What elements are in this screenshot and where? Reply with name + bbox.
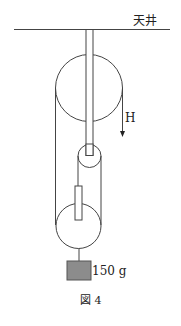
support-rod [86, 30, 93, 156]
arrow-down-icon [120, 131, 125, 137]
pulley-diagram [0, 0, 181, 326]
pulley-connector [75, 186, 82, 220]
force-label: H [125, 112, 135, 124]
mass-label: 150 g [92, 265, 126, 277]
figure-caption: 図 4 [80, 295, 102, 306]
ceiling-label: 天井 [133, 15, 157, 27]
weight-block [67, 261, 91, 280]
small-pulley-rod-cover [86, 144, 93, 156]
